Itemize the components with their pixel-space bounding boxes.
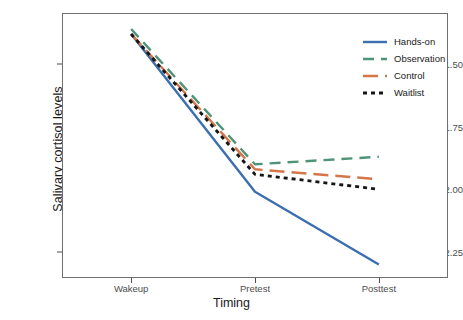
legend-label: Hands-on [394, 36, 435, 47]
legend-line-icon [362, 69, 388, 83]
legend-label: Waitlist [394, 87, 424, 98]
chart-legend: Hands-onObservationControlWaitlist [362, 33, 458, 101]
chart-figure: Salivary cortisol levels -1.50-1.75-2.00… [0, 0, 463, 320]
legend-line-icon [362, 86, 388, 100]
x-tick-mark [255, 278, 256, 283]
x-axis-title: Timing [0, 296, 463, 310]
legend-item-hands-on[interactable]: Hands-on [362, 33, 458, 50]
series-line-observation [131, 29, 379, 164]
x-tick-mark [131, 278, 132, 283]
legend-line-icon [362, 35, 388, 49]
legend-item-observation[interactable]: Observation [362, 50, 458, 67]
legend-label: Observation [394, 53, 445, 64]
series-line-waitlist [131, 34, 379, 189]
x-tick-mark [379, 278, 380, 283]
x-tick-label: Pretest [240, 283, 270, 294]
series-line-control [131, 34, 379, 179]
x-tick-label: Posttest [362, 283, 396, 294]
legend-item-waitlist[interactable]: Waitlist [362, 84, 458, 101]
legend-label: Control [394, 70, 425, 81]
legend-line-icon [362, 52, 388, 66]
legend-item-control[interactable]: Control [362, 67, 458, 84]
x-tick-label: Wakeup [114, 283, 149, 294]
